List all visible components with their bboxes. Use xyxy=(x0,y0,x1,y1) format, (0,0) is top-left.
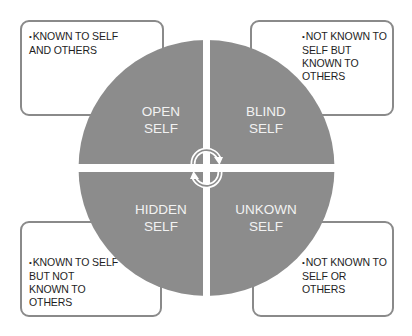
quadrant-hidden-self xyxy=(78,172,203,300)
quadrant-open-self xyxy=(78,38,203,164)
quadrant-blind-self xyxy=(210,38,336,164)
quadrant-label-hidden-self: HIDDEN SELF xyxy=(121,201,201,235)
quadrant-label-unknown-self: UNKOWN SELF xyxy=(226,201,306,235)
quadrant-wheel xyxy=(0,0,412,336)
quadrant-label-blind-self: BLIND SELF xyxy=(226,103,306,137)
cycle-arrows-icon xyxy=(190,150,223,186)
quadrant-unknown-self xyxy=(210,172,336,300)
johari-window-diagram: •KNOWN TO SELF AND OTHERS •NOT KNOWN TO … xyxy=(0,0,412,336)
quadrant-label-open-self: OPEN SELF xyxy=(121,103,201,137)
